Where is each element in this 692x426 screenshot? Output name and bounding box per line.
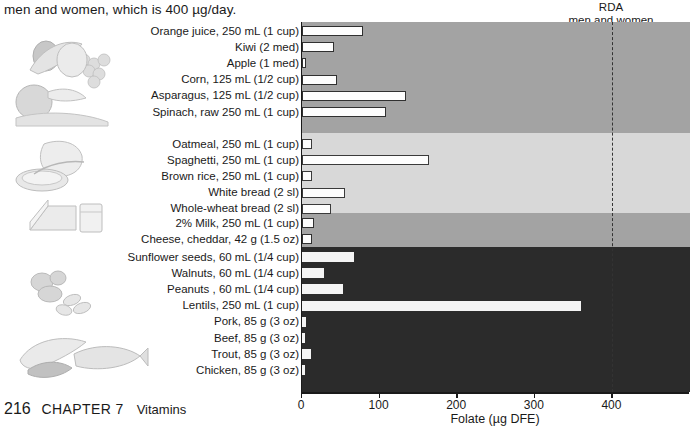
bar bbox=[302, 204, 331, 214]
section-label: Vitamins bbox=[137, 402, 187, 417]
bar bbox=[302, 139, 312, 149]
bar bbox=[302, 301, 581, 311]
page-footer: 216 CHAPTER 7 Vitamins bbox=[4, 400, 186, 418]
category-label: Asparagus, 125 mL (1/2 cup) bbox=[151, 90, 299, 102]
category-label: Oatmeal, 250 mL (1 cup) bbox=[172, 139, 299, 151]
bar bbox=[302, 365, 305, 375]
chapter-label: CHAPTER 7 bbox=[42, 401, 124, 417]
category-label: Chicken, 85 g (3 oz) bbox=[196, 365, 299, 377]
bar bbox=[302, 188, 345, 198]
bar bbox=[302, 349, 311, 359]
category-label: Beef, 85 g (3 oz) bbox=[214, 333, 299, 345]
category-label: Kiwi (2 med) bbox=[235, 42, 299, 54]
bar bbox=[302, 42, 334, 52]
category-label: Peanuts , 60 mL (1/4 cup) bbox=[167, 284, 299, 296]
category-label: Whole-wheat bread (2 sl) bbox=[171, 203, 299, 215]
category-label: Orange juice, 250 mL (1 cup) bbox=[150, 26, 299, 38]
category-label: Apple (1 med) bbox=[227, 58, 299, 70]
category-label: Sunflower seeds, 60 mL (1/4 cup) bbox=[127, 252, 299, 264]
category-label: Spinach, raw 250 mL (1 cup) bbox=[152, 107, 299, 119]
nuts-legumes-illustration bbox=[20, 268, 115, 323]
category-label: White bread (2 sl) bbox=[208, 187, 299, 199]
bar bbox=[302, 234, 312, 244]
x-axis-tick-label: 0 bbox=[298, 398, 305, 412]
category-label: Spaghetti, 250 mL (1 cup) bbox=[167, 155, 299, 167]
rda-annotation-line1: RDA bbox=[546, 1, 676, 14]
category-label: Walnuts, 60 mL (1/4 cup) bbox=[171, 268, 299, 280]
bar bbox=[302, 317, 306, 327]
bar bbox=[302, 333, 305, 343]
bar bbox=[302, 26, 363, 36]
bar bbox=[302, 268, 324, 278]
band-dairy bbox=[302, 213, 690, 247]
band-grains bbox=[302, 133, 690, 213]
x-axis-tick-label: 400 bbox=[601, 398, 621, 412]
bar bbox=[302, 91, 406, 101]
folate-content-bar-chart: RDA men and women bbox=[0, 0, 692, 426]
bar bbox=[302, 58, 306, 68]
category-label: Corn, 125 mL (1/2 cup) bbox=[181, 74, 299, 86]
x-axis-tick-label: 300 bbox=[524, 398, 544, 412]
meat-fish-illustration bbox=[14, 326, 149, 388]
category-label: Brown rice, 250 mL (1 cup) bbox=[161, 171, 299, 183]
grain-illustration bbox=[14, 136, 124, 196]
band-protein-foods bbox=[302, 247, 690, 392]
bar bbox=[302, 75, 337, 85]
x-axis-tick-label: 100 bbox=[369, 398, 389, 412]
x-axis-tick-label: 200 bbox=[446, 398, 466, 412]
rda-reference-line bbox=[612, 22, 613, 392]
fruit-illustration bbox=[12, 30, 132, 130]
bar bbox=[302, 107, 386, 117]
category-label: Trout, 85 g (3 oz) bbox=[211, 349, 299, 361]
category-label: Cheese, cheddar, 42 g (1.5 oz) bbox=[141, 234, 299, 246]
category-label: 2% Milk, 250 mL (1 cup) bbox=[175, 218, 299, 230]
bar bbox=[302, 284, 343, 294]
dairy-illustration bbox=[24, 196, 119, 238]
plot-area bbox=[301, 22, 689, 392]
x-axis-title: Folate (µg DFE) bbox=[301, 412, 689, 426]
bar bbox=[302, 155, 429, 165]
x-axis-line bbox=[301, 392, 689, 394]
bar bbox=[302, 171, 312, 181]
category-label: Pork, 85 g (3 oz) bbox=[214, 316, 299, 328]
bar bbox=[302, 252, 354, 262]
category-label: Lentils, 250 mL (1 cup) bbox=[182, 300, 299, 312]
bar bbox=[302, 218, 314, 228]
page-number: 216 bbox=[4, 400, 31, 417]
